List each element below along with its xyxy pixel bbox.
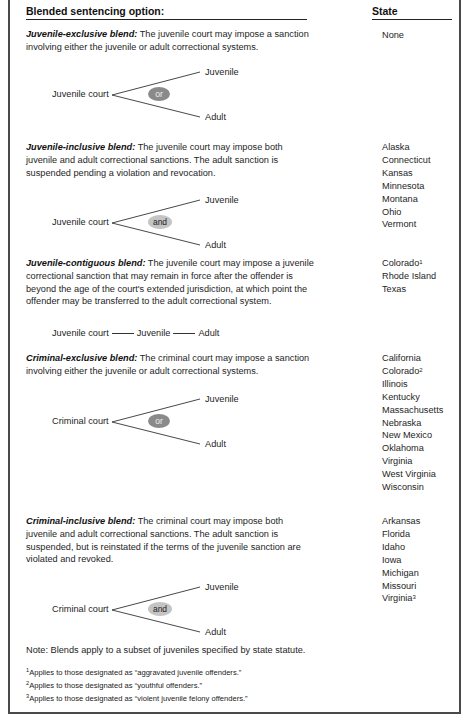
state-item: Wisconsin [382, 481, 443, 494]
state-item: Ohio [382, 206, 431, 219]
diagram-bottom: Adult [205, 240, 226, 250]
diagram-top: Juvenile [205, 195, 239, 205]
and-connector-oval: and [148, 215, 172, 229]
connector-line [173, 333, 195, 334]
diagram-bottom: Adult [205, 627, 226, 637]
footnote-3: 3Applies to those designated as “violent… [26, 694, 248, 703]
state-item: West Virginia [382, 468, 443, 481]
juvenile-exclusive-diagram: Juvenile court Juvenile Adult or [0, 64, 260, 124]
note-text: Note: Blends apply to a subset of juveni… [26, 645, 305, 655]
diagram-court: Criminal court [52, 604, 109, 614]
state-item: Massachusetts [382, 404, 443, 417]
footnote-1: 1Applies to those designated as “aggrava… [26, 668, 241, 677]
state-item: Texas [382, 283, 436, 296]
juvenile-inclusive-diagram: Juvenile court Juvenile Adult and [0, 192, 260, 252]
blend-title: Juvenile-inclusive blend: [26, 142, 135, 152]
state-item: Arkansas [382, 515, 420, 528]
criminal-exclusive-states: California Colorado2 Illinois Kentucky M… [382, 352, 443, 494]
diagram-middle: Juvenile [137, 328, 171, 338]
state-item: Montana [382, 193, 431, 206]
diagram-top: Juvenile [205, 394, 239, 404]
or-connector-oval: or [148, 414, 170, 428]
state-item: Iowa [382, 554, 420, 567]
state-item: Colorado2 [382, 365, 443, 378]
state-item: Virginia [382, 455, 443, 468]
state-item: None [382, 29, 404, 42]
diagram-court: Juvenile court [52, 217, 109, 227]
juvenile-contiguous-description: Juvenile-contiguous blend: The juvenile … [26, 257, 316, 308]
juvenile-contiguous-diagram: Juvenile courtJuvenileAdult [52, 328, 219, 338]
juvenile-exclusive-states: None [382, 29, 404, 42]
state-item: California [382, 352, 443, 365]
or-connector-oval: or [148, 87, 170, 101]
and-connector-oval: and [148, 602, 172, 616]
state-item: Illinois [382, 378, 443, 391]
state-item: Florida [382, 528, 420, 541]
blend-title: Juvenile-exclusive blend: [26, 29, 137, 39]
footnote-2: 2Applies to those designated as “youthfu… [26, 681, 202, 690]
state-item: Idaho [382, 541, 420, 554]
juvenile-contiguous-states: Colorado1 Rhode Island Texas [382, 257, 436, 296]
criminal-exclusive-description: Criminal-exclusive blend: The criminal c… [26, 352, 316, 378]
diagram-bottom: Adult [205, 439, 226, 449]
criminal-inclusive-diagram: Criminal court Juvenile Adult and [0, 579, 260, 639]
blend-title: Criminal-exclusive blend: [26, 353, 137, 363]
juvenile-inclusive-states: Alaska Connecticut Kansas Minnesota Mont… [382, 141, 431, 231]
juvenile-exclusive-description: Juvenile-exclusive blend: The juvenile c… [26, 28, 316, 54]
juvenile-inclusive-description: Juvenile-inclusive blend: The juvenile c… [26, 141, 316, 179]
criminal-inclusive-states: Arkansas Florida Idaho Iowa Michigan Mis… [382, 515, 420, 605]
state-item: Virginia3 [382, 592, 420, 605]
column-header-option: Blended sentencing option: [26, 5, 307, 20]
diagram-court: Criminal court [52, 416, 109, 426]
state-item: Nebraska [382, 417, 443, 430]
blend-title: Criminal-inclusive blend: [26, 516, 135, 526]
diagram-court: Juvenile court [52, 89, 109, 99]
diagram-end: Adult [198, 328, 219, 338]
state-item: Missouri [382, 580, 420, 593]
column-header-state: State [372, 5, 452, 20]
blend-title: Juvenile-contiguous blend: [26, 258, 145, 268]
state-item: Oklahoma [382, 442, 443, 455]
state-item: Alaska [382, 141, 431, 154]
connector-line [112, 333, 134, 334]
state-item: Minnesota [382, 180, 431, 193]
criminal-inclusive-description: Criminal-inclusive blend: The criminal c… [26, 515, 316, 566]
state-item: Vermont [382, 218, 431, 231]
state-item: Michigan [382, 567, 420, 580]
diagram-bottom: Adult [205, 112, 226, 122]
state-item: Kansas [382, 167, 431, 180]
state-item: Kentucky [382, 391, 443, 404]
state-item: New Mexico [382, 429, 443, 442]
state-item: Rhode Island [382, 270, 436, 283]
diagram-top: Juvenile [205, 582, 239, 592]
diagram-court: Juvenile court [52, 328, 109, 338]
diagram-top: Juvenile [205, 67, 239, 77]
state-item: Colorado1 [382, 257, 436, 270]
criminal-exclusive-diagram: Criminal court Juvenile Adult or [0, 391, 260, 451]
state-item: Connecticut [382, 154, 431, 167]
